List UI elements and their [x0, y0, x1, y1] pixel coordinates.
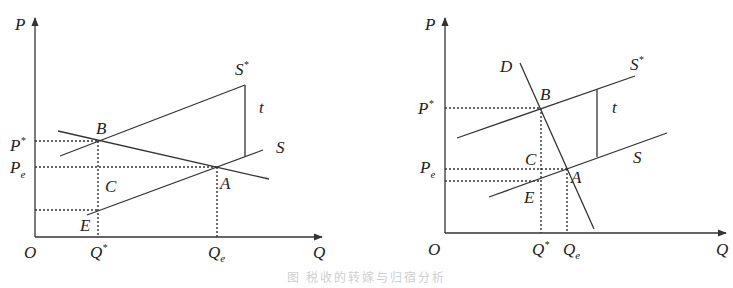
right-supply-label: S — [633, 148, 642, 167]
left-supply-after-tax-label: S* — [235, 59, 249, 79]
right-demand-label: D — [499, 57, 513, 76]
right-supply-after-tax-label: S* — [630, 54, 644, 74]
left-demand-curve — [58, 131, 269, 179]
left-point-e-label: E — [79, 216, 91, 235]
left-origin-label: O — [24, 243, 36, 262]
right-pe-label: Pe — [419, 158, 435, 180]
right-origin-label: O — [428, 240, 440, 259]
left-tax-label: t — [259, 98, 265, 117]
right-panel: P Q O P* Pe Q* Qe D S* S t B A C E — [417, 15, 728, 261]
left-pe-label: Pe — [9, 158, 25, 180]
figure-caption: 图 税收的转嫁与归宿分析 — [0, 268, 733, 285]
left-pstar-label: P* — [9, 135, 25, 155]
right-y-axis-label: P — [424, 15, 435, 34]
left-point-a-label: A — [219, 174, 231, 193]
tax-incidence-diagram: P Q O P* Pe Q* Qe S* S t B A C E P Q O P… — [0, 0, 733, 288]
left-point-b-label: B — [96, 119, 107, 138]
right-point-a-label: A — [570, 168, 582, 187]
left-point-c-label: C — [105, 177, 117, 196]
left-y-axis-label: P — [14, 15, 25, 34]
right-pstar-label: P* — [417, 98, 433, 118]
right-qstar-label: Q* — [532, 239, 549, 259]
left-qe-label: Qe — [208, 243, 225, 264]
right-qe-label: Qe — [563, 240, 580, 261]
left-panel: P Q O P* Pe Q* Qe S* S t B A C E — [9, 15, 325, 264]
right-x-axis-label: Q — [716, 240, 728, 259]
right-point-c-label: C — [525, 150, 537, 169]
right-point-e-label: E — [523, 188, 535, 207]
left-x-axis-label: Q — [313, 243, 325, 262]
left-qstar-label: Q* — [90, 242, 107, 262]
left-supply-after-tax-curve — [60, 85, 245, 156]
right-tax-label: t — [612, 98, 618, 117]
left-supply-label: S — [276, 138, 285, 157]
right-point-b-label: B — [540, 85, 551, 104]
